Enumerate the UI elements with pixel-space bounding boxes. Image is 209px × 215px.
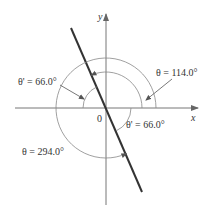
label-ref-lower: θ' = 66.0° — [126, 119, 165, 130]
angle-diagram: y x 0 θ = 114.0° θ' = 66.0° θ' = 66.0° θ… — [0, 0, 209, 215]
pointer-theta-114 — [146, 79, 172, 100]
label-ref-upper: θ' = 66.0° — [18, 76, 57, 87]
label-theta-294: θ = 294.0° — [22, 146, 64, 157]
label-theta-114: θ = 114.0° — [156, 67, 198, 78]
x-axis-label: x — [190, 112, 196, 123]
arc-ref-upper — [83, 87, 97, 108]
y-axis-label: y — [97, 11, 103, 22]
arc-theta-114 — [91, 72, 142, 108]
origin-label: 0 — [97, 113, 102, 124]
pointer-ref-upper — [60, 85, 84, 99]
